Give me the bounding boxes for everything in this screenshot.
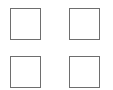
checkbox-top-left[interactable] (10, 8, 41, 40)
checkbox-bottom-left[interactable] (10, 56, 41, 88)
checkbox-top-right[interactable] (69, 8, 100, 40)
checkbox-bottom-right[interactable] (69, 56, 100, 88)
